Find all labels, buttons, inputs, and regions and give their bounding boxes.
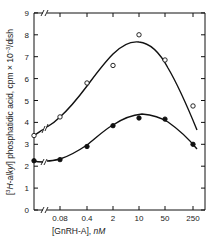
open-data-point [111, 63, 115, 67]
y-tick-label: 2 [25, 162, 30, 171]
y-tick-label: 3 [25, 140, 30, 149]
open-data-point [137, 33, 141, 37]
open-data-point [58, 115, 62, 119]
chart: 0123456789 0.080.421050250 [3H-alkyl] ph… [0, 0, 213, 241]
y-tick-label: 4 [25, 118, 30, 127]
y-tick-label: 8 [25, 31, 30, 40]
y-tick-label: 7 [25, 53, 30, 62]
open-data-point [163, 58, 167, 62]
open-data-point [32, 133, 36, 137]
x-tick-label: 0.08 [52, 214, 68, 223]
y-tick-label: 0 [25, 206, 30, 215]
filled-data-point [85, 144, 89, 148]
filled-data-point [32, 159, 36, 163]
y-axis-title: [3H-alkyl] phosphatidic acid, cpm × 10−3… [5, 29, 15, 195]
axis-break-marks [41, 10, 48, 213]
x-axis-title: [GnRH-A], nM [52, 226, 106, 236]
x-tick-label: 250 [186, 214, 200, 223]
filled-data-point [111, 123, 115, 127]
open-data-point [191, 104, 195, 108]
x-tick-label: 10 [135, 214, 144, 223]
x-tick-label: 50 [161, 214, 170, 223]
y-tick-label: 9 [25, 9, 30, 18]
data-points [32, 33, 195, 163]
y-tick-label: 5 [25, 97, 30, 106]
x-tick-label: 0.4 [81, 214, 93, 223]
y-tick-label: 6 [25, 75, 30, 84]
filled-series-curve [47, 114, 197, 161]
y-ticks: 0123456789 [25, 9, 205, 215]
filled-data-point [137, 116, 141, 120]
open-series-curve [47, 42, 197, 130]
filled-data-point [163, 117, 167, 121]
plot-frame [34, 13, 205, 210]
x-tick-label: 2 [111, 214, 116, 223]
filled-data-point [58, 157, 62, 161]
open-data-point [85, 81, 89, 85]
y-tick-label: 1 [25, 184, 30, 193]
fit-curves [34, 42, 197, 162]
filled-data-point [191, 142, 195, 146]
